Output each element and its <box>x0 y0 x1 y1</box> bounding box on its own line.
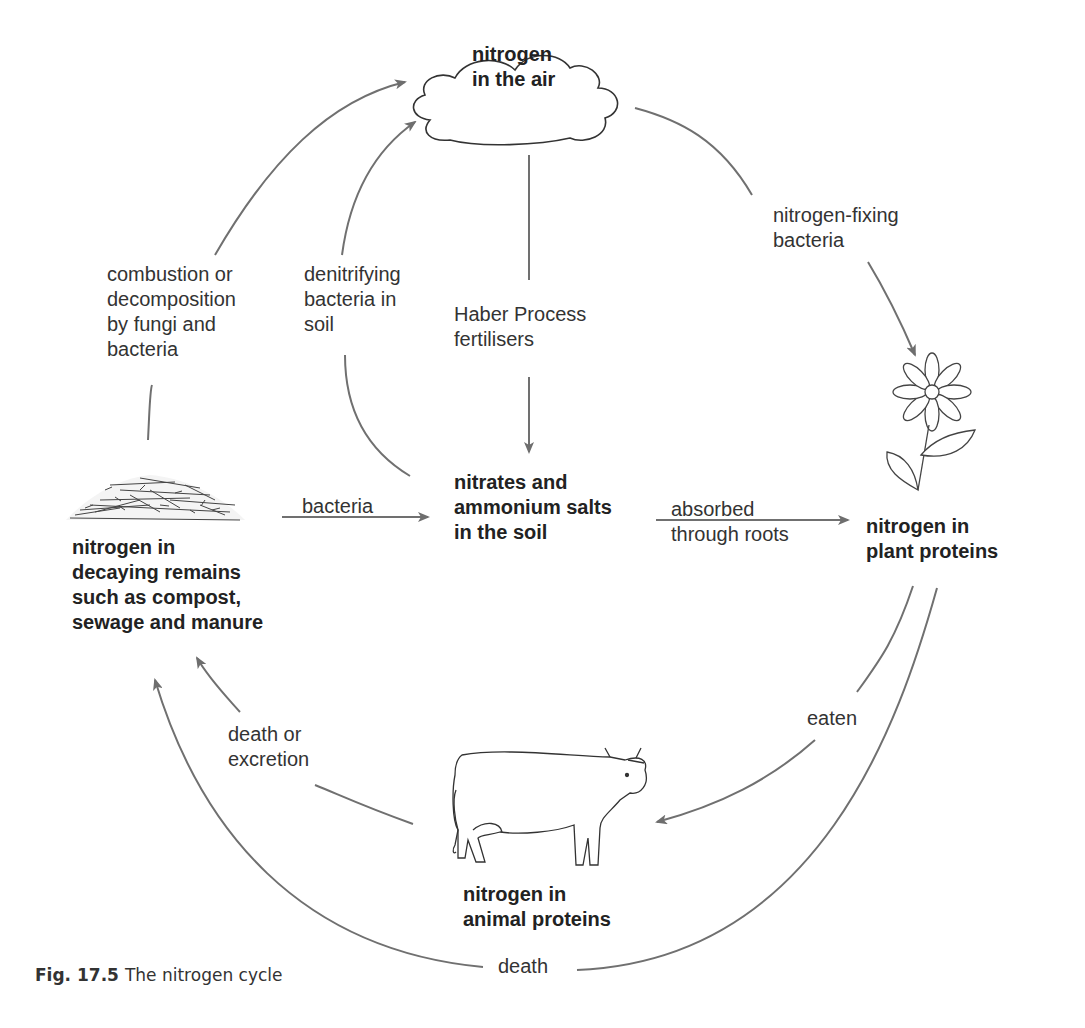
arrow-denitrifying-upper <box>342 122 415 255</box>
label-denitrifying: denitrifying bacteria in soil <box>304 262 401 337</box>
line-eaten-upper <box>857 586 913 692</box>
figure-title: The nitrogen cycle <box>125 965 283 985</box>
arrow-combustion-upper <box>215 82 405 255</box>
arrow-eaten-lower <box>657 740 815 822</box>
arrow-excretion-upper <box>197 658 240 712</box>
label-fixing: nitrogen-fixing bacteria <box>773 203 899 253</box>
arrow-combustion <box>148 385 152 440</box>
node-plant: nitrogen in plant proteins <box>866 514 998 564</box>
flower-icon <box>887 353 975 490</box>
figure-number: Fig. 17.5 <box>35 965 119 985</box>
arrow-death-left <box>155 680 483 967</box>
arrow-excretion-lower <box>315 785 413 824</box>
label-bacteria: bacteria <box>302 494 373 519</box>
arrow-fixing-lower <box>868 262 915 355</box>
label-death-excretion: death or excretion <box>228 722 309 772</box>
label-death: death <box>498 954 548 979</box>
line-fixing-upper <box>635 108 752 195</box>
node-animal: nitrogen in animal proteins <box>463 882 611 932</box>
compost-pile-icon <box>66 475 245 520</box>
figure-caption: Fig. 17.5The nitrogen cycle <box>35 965 283 985</box>
label-absorbed: absorbed through roots <box>671 497 789 547</box>
label-combustion: combustion or decomposition by fungi and… <box>107 262 236 362</box>
cow-icon <box>453 748 646 865</box>
label-eaten: eaten <box>807 706 857 731</box>
node-air: nitrogen in the air <box>472 42 555 92</box>
node-decay: nitrogen in decaying remains such as com… <box>72 535 263 635</box>
arrow-denitrifying-lower <box>345 355 410 476</box>
node-soil: nitrates and ammonium salts in the soil <box>454 470 612 545</box>
label-haber: Haber Process fertilisers <box>454 302 586 352</box>
